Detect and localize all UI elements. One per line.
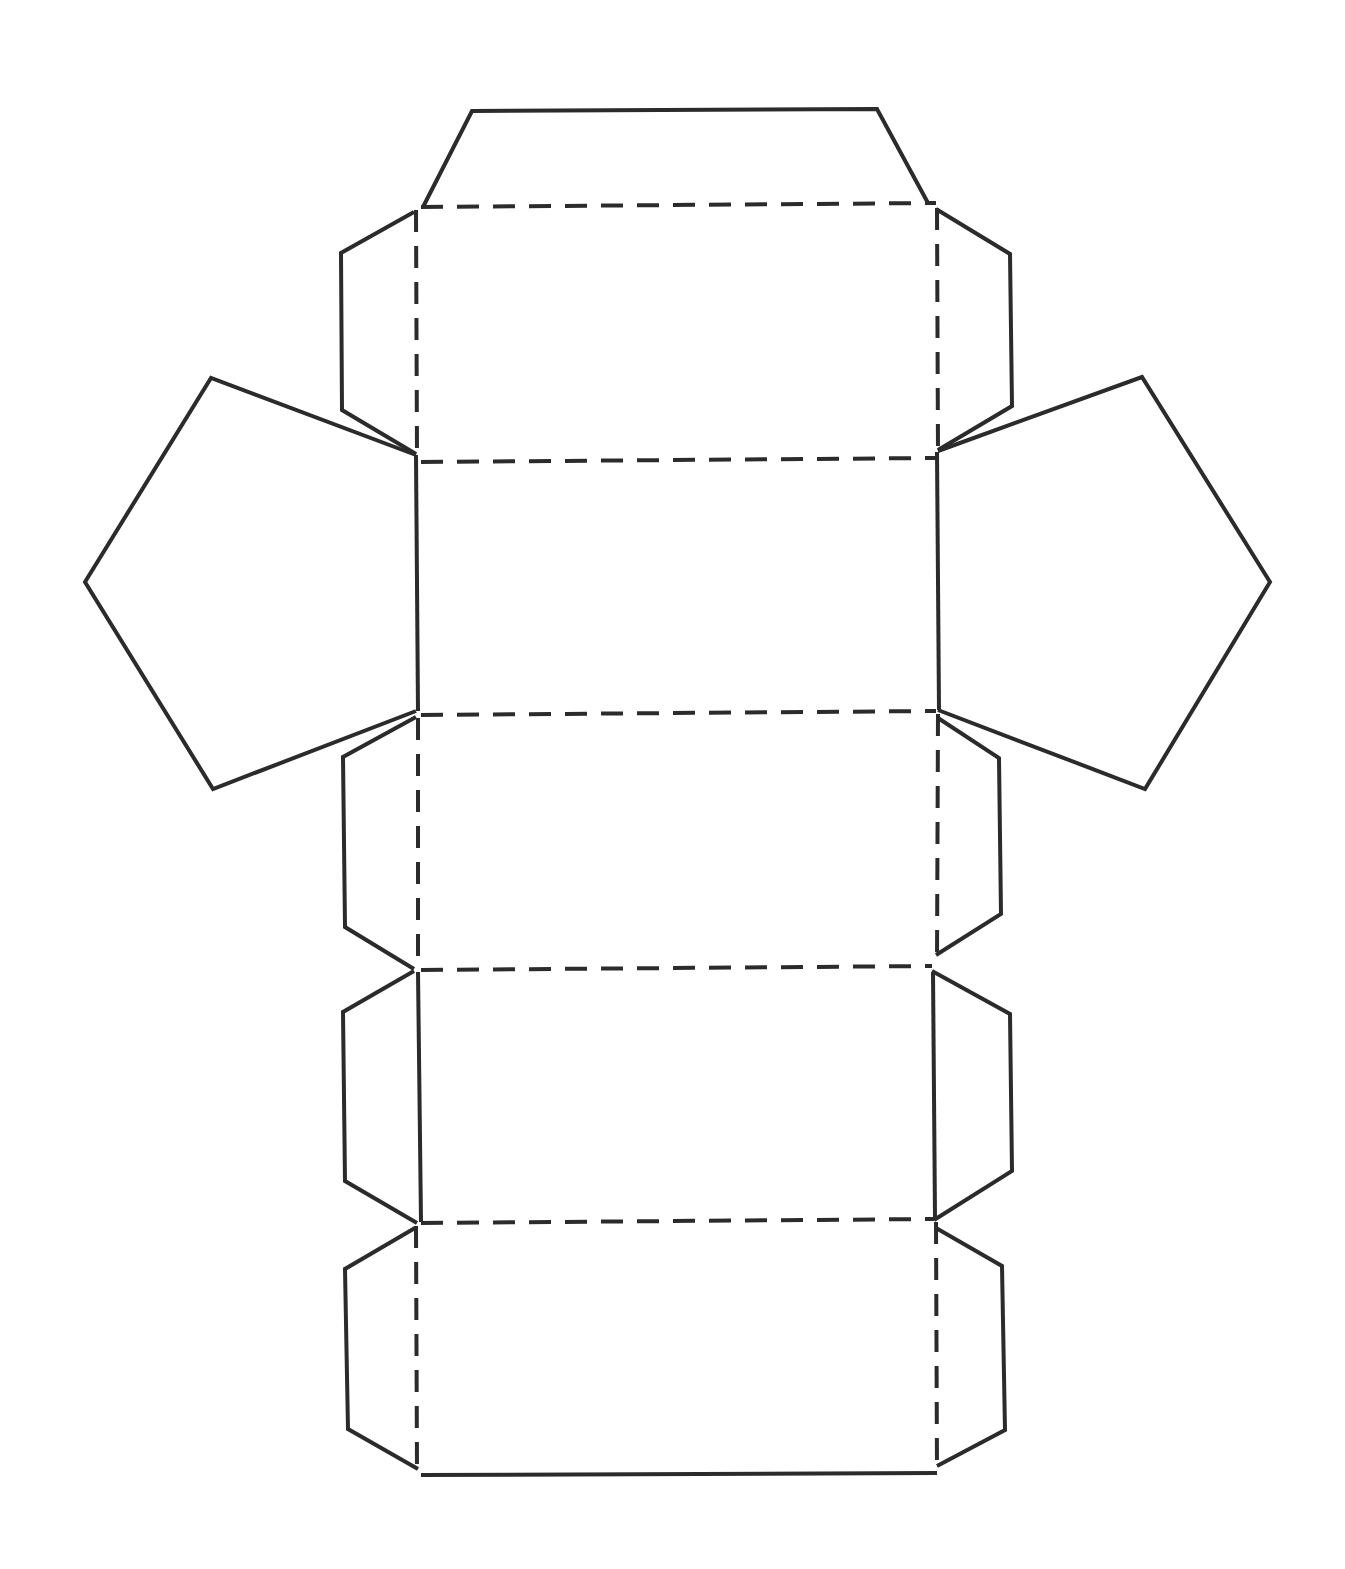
left-glue-tab-3 bbox=[343, 971, 417, 1223]
fold-line-h1 bbox=[421, 203, 936, 207]
left-glue-tab-2 bbox=[343, 717, 416, 969]
left-pentagon-face bbox=[85, 378, 416, 789]
right-glue-tab-4 bbox=[936, 1228, 1005, 1466]
middle-rectangle-left-edge bbox=[416, 455, 418, 711]
middle-rectangle-right-edge bbox=[937, 452, 939, 710]
left-glue-tab-4 bbox=[345, 1228, 418, 1469]
fold-line-v-left-1 bbox=[416, 210, 417, 455]
fold-line-h3 bbox=[421, 711, 936, 715]
top-glue-tab bbox=[423, 109, 928, 207]
fold-line-v-right-1 bbox=[937, 208, 938, 452]
fold-line-v-left-3 bbox=[416, 1226, 417, 1470]
fold-line-v-right-2 bbox=[937, 714, 938, 960]
fourth-rectangle-left-edge bbox=[418, 972, 421, 1222]
fold-line-h5 bbox=[421, 1219, 934, 1223]
fold-line-h2 bbox=[421, 458, 936, 462]
right-glue-tab-2 bbox=[936, 718, 1001, 955]
left-glue-tab-1 bbox=[341, 212, 416, 454]
fold-line-h4 bbox=[421, 966, 932, 970]
fourth-rectangle-right-edge bbox=[933, 972, 935, 1218]
right-glue-tab-3 bbox=[932, 971, 1012, 1220]
right-pentagon-face bbox=[938, 377, 1270, 789]
right-glue-tab-1 bbox=[936, 209, 1012, 450]
fold-line-v-right-3 bbox=[936, 1222, 937, 1470]
bottom-edge bbox=[421, 1473, 937, 1475]
pentagonal-prism-net-diagram bbox=[0, 0, 1345, 1569]
